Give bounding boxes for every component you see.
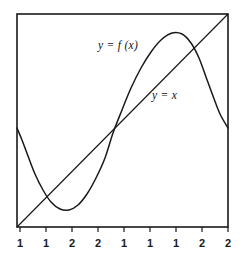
axis-tick-label: 2 (221, 237, 235, 249)
axis-tick-label: 1 (169, 237, 183, 249)
axis-tick-label: 1 (13, 237, 27, 249)
figure-container: 112211122 y = f (x) y = x (0, 0, 245, 258)
axis-tick-label: 1 (143, 237, 157, 249)
axis-tick-label: 1 (117, 237, 131, 249)
function-curve-y-equals-f-of-x (17, 32, 228, 210)
label-identity-line: y = x (152, 89, 177, 101)
axis-tick-label: 2 (91, 237, 105, 249)
label-function-curve: y = f (x) (98, 39, 138, 51)
axis-tick-label: 1 (39, 237, 53, 249)
axis-tick-label: 2 (65, 237, 79, 249)
label-identity-line-text: y = x (152, 89, 177, 101)
axis-tick-label: 2 (195, 237, 209, 249)
label-function-curve-text: y = f (x) (98, 39, 138, 51)
